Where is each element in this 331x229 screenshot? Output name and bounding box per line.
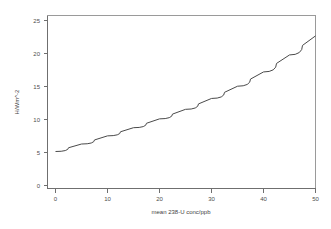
y-tick-label-5: 5 [37,150,41,156]
y-tick-label-0: 0 [37,183,41,189]
y-tick-label-20: 20 [33,51,40,57]
chart-figure: 0 5 10 15 20 25 0 10 20 30 40 50 m [0,0,331,229]
y-axis-tick-labels: 0 5 10 15 20 25 [33,18,40,189]
x-tick-label-50: 50 [312,196,319,202]
line-chart: 0 5 10 15 20 25 0 10 20 30 40 50 m [0,0,331,229]
x-axis-title: mean 238-U conc/ppb [151,209,211,215]
y-tick-label-25: 25 [33,18,40,24]
x-tick-label-40: 40 [260,196,267,202]
y-axis-ticks [44,21,48,186]
plot-box [48,16,316,189]
data-series-line [56,36,316,152]
x-tick-label-20: 20 [156,196,163,202]
x-tick-label-10: 10 [104,196,111,202]
x-axis-tick-labels: 0 10 20 30 40 50 [54,196,320,202]
x-tick-label-0: 0 [54,196,58,202]
y-tick-label-10: 10 [33,117,40,123]
x-axis-ticks [56,189,316,193]
x-tick-label-30: 30 [208,196,215,202]
y-axis-title: H/Wm^-2 [14,89,20,114]
plot-frame [48,16,316,189]
y-tick-label-15: 15 [33,84,40,90]
